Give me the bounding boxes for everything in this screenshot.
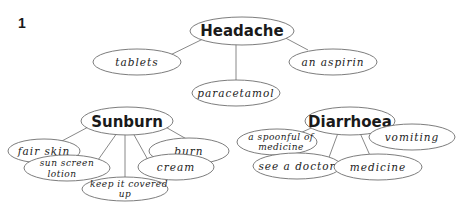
svg-text:medicine: medicine — [350, 161, 406, 173]
connector-line — [133, 133, 148, 160]
leaf-sun-screen-lotion: sun screen lotion — [24, 155, 110, 181]
svg-text:an aspirin: an aspirin — [301, 56, 364, 68]
svg-text:medicine: medicine — [258, 142, 304, 152]
svg-text:see a doctor: see a doctor — [258, 160, 335, 172]
leaf-tablets: tablets — [93, 49, 181, 75]
leaf-a-spoonful-of-medicine: a spoonful of medicine — [237, 129, 317, 155]
svg-text:vomiting: vomiting — [385, 131, 440, 143]
hub-label: Headache — [200, 22, 283, 40]
leaf-medicine: medicine — [334, 154, 422, 180]
connector-line — [328, 133, 338, 160]
svg-text:cream: cream — [157, 161, 195, 173]
leaf-paracetamol: paracetamol — [192, 80, 280, 106]
svg-text:paracetamol: paracetamol — [197, 87, 274, 99]
hub-label: Sunburn — [91, 113, 163, 131]
mind-map-diagram: Headache tablets paracetamol an aspirin … — [0, 0, 466, 216]
leaf-keep-it-covered-up: keep it covered up — [82, 177, 168, 201]
leaf-vomiting: vomiting — [369, 124, 455, 150]
hub-sunburn: Sunburn — [81, 107, 173, 135]
leaf-cream: cream — [138, 154, 214, 180]
svg-text:sun screen: sun screen — [40, 158, 94, 168]
svg-text:keep it covered: keep it covered — [90, 179, 168, 189]
leaf-an-aspirin: an aspirin — [289, 49, 377, 75]
leaf-see-a-doctor: see a doctor — [253, 153, 341, 179]
svg-text:up: up — [119, 189, 132, 199]
svg-text:tablets: tablets — [115, 56, 158, 68]
connector-line — [98, 133, 117, 160]
svg-text:a spoonful of: a spoonful of — [248, 132, 315, 142]
svg-text:lotion: lotion — [47, 169, 76, 179]
hub-headache: Headache — [190, 17, 294, 45]
